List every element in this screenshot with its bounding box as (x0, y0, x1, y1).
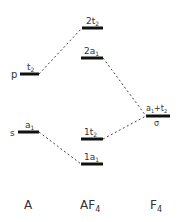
column-label-AF4: AF4 (80, 198, 100, 214)
label-sigma: σ (154, 119, 159, 128)
column-label-A: A (24, 198, 33, 212)
label-p: p (11, 69, 17, 80)
mo-diagram: p t2 s a1 2t2 2a1 1t2 1a1 a1+t2 σ A AF4 … (0, 0, 180, 222)
label-1a1: 1a1 (84, 152, 99, 163)
label-2a1: 2a1 (84, 46, 99, 57)
connection-s-1a1 (39, 132, 81, 164)
connection-p-2t2 (39, 28, 82, 74)
label-1t2: 1t2 (84, 127, 97, 138)
connection-2a1-sigma (103, 58, 146, 116)
label-p-sym: t2 (27, 62, 35, 73)
connection-1t2-sigma (103, 116, 146, 139)
column-label-F4: F4 (150, 198, 162, 214)
label-s: s (10, 128, 15, 138)
label-2t2: 2t2 (86, 16, 99, 27)
label-sigma-sym: a1+t2 (146, 104, 167, 114)
label-s-sym: a1 (25, 120, 35, 131)
